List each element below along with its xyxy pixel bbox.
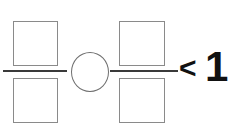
right-fraction-numerator-box[interactable] xyxy=(119,21,165,66)
right-fraction-denominator-box[interactable] xyxy=(119,78,165,123)
worksheet-canvas: < 1 xyxy=(0,0,234,137)
right-fraction-bar xyxy=(110,70,178,72)
comparison-value-one: 1 xyxy=(205,46,228,88)
less-than-symbol: < xyxy=(179,53,197,83)
right-fraction xyxy=(0,0,234,137)
